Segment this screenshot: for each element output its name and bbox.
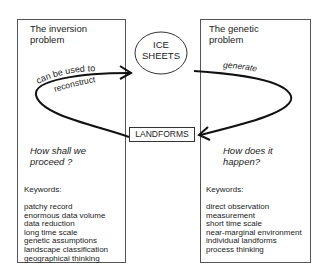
generate-arrow bbox=[194, 71, 291, 135]
svg-text:generate: generate bbox=[223, 60, 258, 74]
landforms-node: LANDFORMS bbox=[129, 127, 195, 142]
ice-sheets-label: ICE SHEETS bbox=[135, 40, 187, 61]
generate-label: generate bbox=[223, 60, 258, 74]
